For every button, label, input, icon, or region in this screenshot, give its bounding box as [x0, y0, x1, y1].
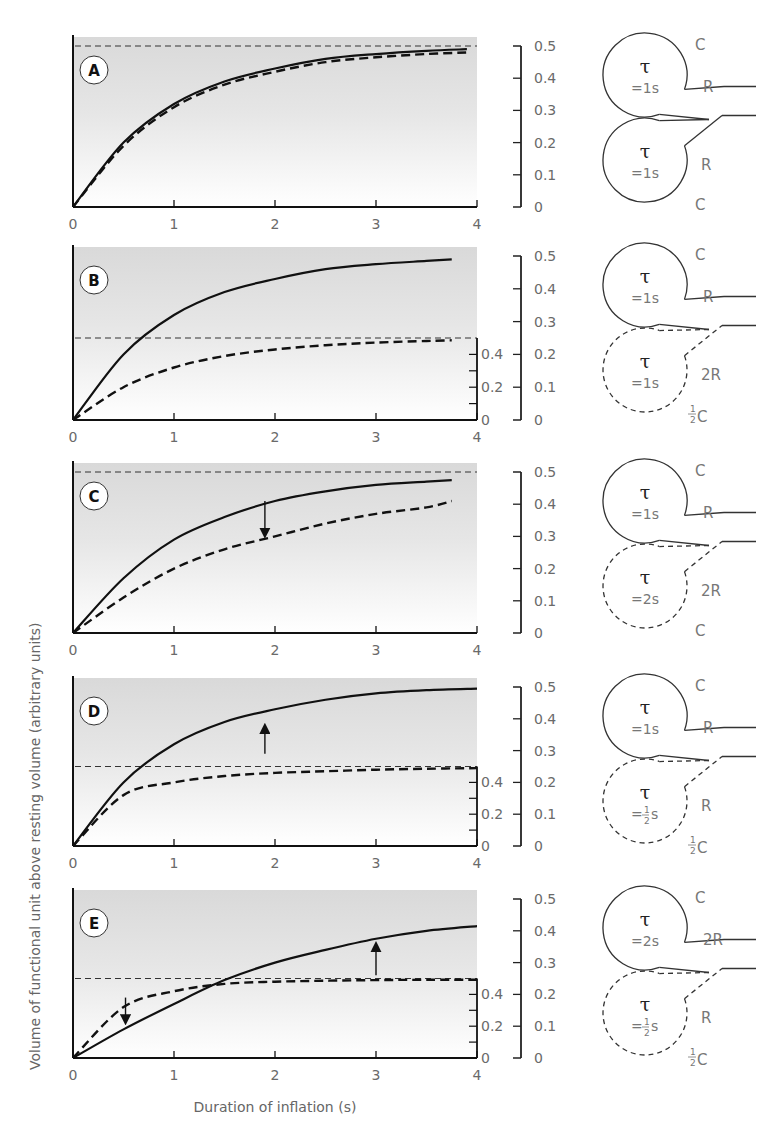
- x-tick-label: 2: [271, 642, 280, 658]
- inner-y-tick-label: 0.4: [481, 346, 503, 362]
- svg-text:1: 1: [690, 404, 696, 414]
- y-tick-label: 0: [534, 412, 543, 428]
- resistance-label: R: [701, 156, 711, 174]
- compliance-label: C: [697, 1051, 707, 1069]
- x-tick-label: 3: [372, 642, 381, 658]
- panel-c: 0123400.10.20.30.40.5Cτ=1sCRτ=2s2RC: [69, 459, 756, 658]
- y-tick-label: 0.5: [534, 38, 556, 54]
- y-tick-label: 0.1: [534, 806, 556, 822]
- y-tick-label: 0.4: [534, 281, 556, 297]
- y-tick-label: 0: [534, 838, 543, 854]
- plot-area: [73, 247, 477, 420]
- y-tick-label: 0.4: [534, 923, 556, 939]
- resistance-label: R: [701, 797, 711, 815]
- plot-area: [73, 463, 477, 633]
- y-tick-label: 0.4: [534, 711, 556, 727]
- x-tick-label: 4: [473, 429, 482, 445]
- y-tick-label: 0.1: [534, 379, 556, 395]
- svg-text:2: 2: [690, 846, 696, 856]
- plot-area: [73, 678, 477, 846]
- compliance-label: C: [695, 677, 705, 695]
- inner-y-tick-label: 0.4: [481, 774, 503, 790]
- x-tick-label: 0: [69, 855, 78, 871]
- panel-e: 0123400.10.20.30.40.500.20.4Eτ=2sC2Rτ=12…: [69, 886, 756, 1083]
- y-tick-label: 0.4: [534, 70, 556, 86]
- y-tick-label: 0.2: [534, 986, 556, 1002]
- y-tick-label: 0.2: [534, 346, 556, 362]
- tau-symbol: τ: [640, 350, 651, 372]
- svg-text:s: s: [651, 806, 658, 822]
- svg-text:1: 1: [690, 835, 696, 845]
- lung-unit-diagram: τ=1sCRτ=2s2RC: [603, 459, 756, 640]
- tau-value: =2s: [631, 933, 659, 949]
- resistance-label: R: [701, 1009, 711, 1027]
- tau-symbol: τ: [640, 265, 651, 287]
- x-tick-label: 3: [372, 429, 381, 445]
- compliance-label: C: [695, 462, 705, 480]
- y-tick-label: 0.5: [534, 464, 556, 480]
- tau-symbol: τ: [640, 696, 651, 718]
- tau-symbol: τ: [640, 566, 651, 588]
- y-tick-label: 0: [534, 1050, 543, 1066]
- inner-y-tick-label: 0: [481, 1050, 490, 1066]
- panel-b: 0123400.10.20.30.40.500.20.4Bτ=1sCRτ=1s2…: [69, 243, 756, 445]
- panel-letter: B: [88, 272, 99, 290]
- y-tick-label: 0.1: [534, 593, 556, 609]
- y-axis-title: Volume of functional unit above resting …: [27, 622, 43, 1070]
- y-tick-label: 0.1: [534, 167, 556, 183]
- x-tick-label: 1: [170, 642, 179, 658]
- panel-letter: A: [88, 62, 100, 80]
- x-tick-label: 4: [473, 1067, 482, 1083]
- inner-y-tick-label: 0.2: [481, 379, 503, 395]
- y-tick-label: 0.2: [534, 561, 556, 577]
- figure: Volume of functional unit above resting …: [0, 0, 784, 1121]
- y-tick-label: 0.5: [534, 891, 556, 907]
- resistance-label: 2R: [703, 931, 723, 949]
- tau-value: =: [631, 806, 643, 822]
- tau-value: =1s: [631, 375, 659, 391]
- x-tick-label: 1: [170, 216, 179, 232]
- inner-y-tick-label: 0: [481, 412, 490, 428]
- inner-y-tick-label: 0.4: [481, 986, 503, 1002]
- x-tick-label: 0: [69, 642, 78, 658]
- x-tick-label: 2: [271, 855, 280, 871]
- tau-symbol: τ: [640, 140, 651, 162]
- resistance-label: 2R: [701, 366, 721, 384]
- tau-symbol: τ: [640, 481, 651, 503]
- tau-symbol: τ: [640, 993, 651, 1015]
- svg-text:2: 2: [690, 1058, 696, 1068]
- compliance-label: C: [695, 889, 705, 907]
- x-tick-label: 4: [473, 216, 482, 232]
- svg-text:2: 2: [644, 816, 650, 826]
- lung-unit-diagram: τ=1sCRτ=12sR12C: [603, 674, 756, 857]
- compliance-label: C: [695, 36, 705, 54]
- compliance-label: C: [695, 246, 705, 264]
- resistance-label: R: [703, 78, 713, 96]
- lung-unit-diagram: τ=1sCRτ=1sRC: [603, 33, 756, 214]
- tau-value: =1s: [631, 80, 659, 96]
- y-tick-label: 0: [534, 625, 543, 641]
- plot-area: [73, 890, 477, 1058]
- resistance-label: R: [703, 288, 713, 306]
- tau-value: =1s: [631, 165, 659, 181]
- tau-symbol: τ: [640, 55, 651, 77]
- x-tick-label: 3: [372, 855, 381, 871]
- tau-value: =1s: [631, 290, 659, 306]
- svg-text:2: 2: [690, 415, 696, 425]
- x-tick-label: 2: [271, 429, 280, 445]
- tau-value: =1s: [631, 506, 659, 522]
- y-tick-label: 0.2: [534, 135, 556, 151]
- x-tick-label: 4: [473, 855, 482, 871]
- compliance-label: C: [695, 196, 705, 214]
- compliance-label: C: [697, 408, 707, 426]
- y-tick-label: 0.3: [534, 743, 556, 759]
- y-tick-label: 0.3: [534, 314, 556, 330]
- lung-unit-diagram: τ=2sC2Rτ=12sR12C: [603, 886, 756, 1069]
- svg-text:2: 2: [644, 1028, 650, 1038]
- y-tick-label: 0.5: [534, 248, 556, 264]
- y-tick-label: 0.3: [534, 102, 556, 118]
- panel-letter: D: [88, 703, 100, 721]
- x-axis-title: Duration of inflation (s): [194, 1099, 357, 1115]
- panel-a: 0123400.10.20.30.40.5Aτ=1sCRτ=1sRC: [69, 33, 756, 232]
- inner-y-tick-label: 0: [481, 838, 490, 854]
